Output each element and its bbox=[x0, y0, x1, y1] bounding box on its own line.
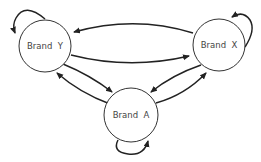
edge-y-to-x bbox=[71, 55, 189, 63]
node-label-brand-a: Brand A bbox=[113, 110, 150, 120]
edge-y-to-a bbox=[63, 64, 112, 92]
edge-x-to-y bbox=[74, 24, 193, 33]
node-label-brand-y: Brand Y bbox=[27, 41, 64, 51]
edge-a-to-y bbox=[57, 73, 110, 104]
edge-x-to-a bbox=[151, 65, 201, 92]
brand-switching-diagram: Brand Y Brand X Brand A bbox=[0, 0, 261, 162]
node-label-brand-x: Brand X bbox=[201, 40, 238, 50]
node-brand-y: Brand Y bbox=[19, 20, 71, 72]
node-brand-x: Brand X bbox=[193, 19, 245, 71]
edge-a-to-x bbox=[156, 73, 206, 103]
node-brand-a: Brand A bbox=[104, 88, 158, 142]
